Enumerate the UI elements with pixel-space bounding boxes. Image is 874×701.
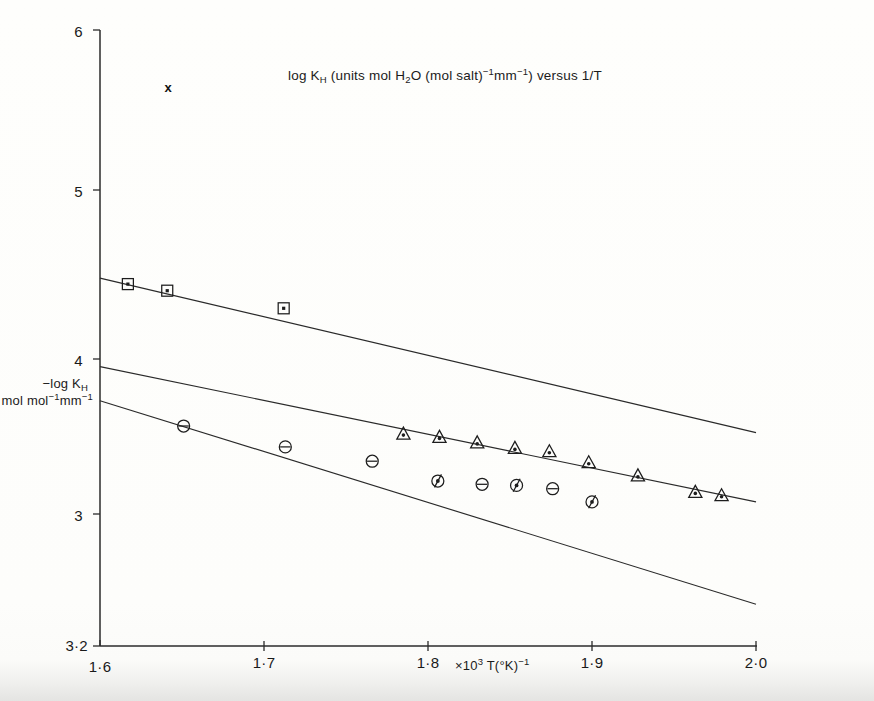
ylabel-line1-part1: −log K — [43, 376, 82, 391]
x-ticklabel-1-6: 1·6 — [89, 658, 112, 675]
data-point-circle-with-bar — [366, 455, 378, 467]
y-ticklabel-3-2: 3·2 — [65, 637, 88, 654]
title-part-6: 1/T — [582, 68, 602, 83]
y-axis-label: −log KH mol mol−1mm−1 — [2, 376, 93, 408]
data-point-circle-with-dot-tail — [511, 479, 523, 492]
fit-line-squares — [100, 278, 756, 432]
plot-svg: 6 5 4 3 3·2 1·6 1·7 1·8 1·9 2·0 log KH (… — [0, 0, 874, 701]
x-ticklabel-1-9: 1·9 — [581, 654, 604, 671]
fit-line-triangles — [100, 367, 756, 502]
title-part-1: log K — [288, 68, 320, 83]
y-ticklabel-6: 6 — [74, 23, 83, 40]
title-sup-1: −1 — [483, 66, 494, 77]
data-point-circle-with-dot-tail — [586, 495, 598, 508]
data-point-triangle-with-dot — [689, 485, 702, 497]
plot-title: log KH (units mol H2O (mol salt)−1mm−1) … — [288, 66, 602, 85]
ylabel-line2-part2: mm — [60, 393, 82, 408]
x-axis-label: ×103 T(°K)−1 — [455, 656, 529, 673]
ylabel-line2-sup2: −1 — [82, 391, 93, 402]
x-axis-tick-labels: 1·6 1·7 1·8 1·9 2·0 — [89, 654, 768, 675]
data-point-triangle-with-dot — [471, 436, 484, 448]
y-axis-ticks — [93, 30, 100, 646]
data-point-square-with-dot — [278, 303, 289, 314]
ylabel-line2-part1: mol mol — [2, 393, 49, 408]
stray-x-mark: x — [164, 80, 172, 95]
data-point-circle-with-bar — [547, 483, 559, 495]
xlabel-part2: T(°K) — [483, 658, 518, 673]
xlabel-sup2: −1 — [518, 656, 529, 667]
data-point-circle-with-bar — [279, 441, 291, 453]
title-part-4: mm — [494, 68, 517, 83]
svg-text:mol mol−1mm−1: mol mol−1mm−1 — [2, 391, 93, 408]
title-sub-h: H — [320, 74, 327, 85]
data-point-circle-with-dot-tail — [432, 474, 444, 487]
data-markers-group — [122, 279, 728, 509]
x-ticklabel-1-8: 1·8 — [417, 654, 440, 671]
x-ticklabel-2-0: 2·0 — [745, 654, 768, 671]
x-ticklabel-1-7: 1·7 — [253, 654, 276, 671]
fit-lines-group — [100, 278, 756, 604]
data-point-triangle-with-dot — [543, 445, 556, 457]
arrhenius-plot-figure: 6 5 4 3 3·2 1·6 1·7 1·8 1·9 2·0 log KH (… — [0, 0, 874, 701]
svg-text:×103 T(°K)−1: ×103 T(°K)−1 — [455, 656, 529, 673]
y-axis-tick-labels: 6 5 4 3 3·2 — [65, 23, 88, 654]
y-ticklabel-3: 3 — [74, 507, 83, 524]
ylabel-line2-sup1: −1 — [48, 391, 59, 402]
title-part-5: ) versus — [528, 68, 582, 83]
plot-axes — [100, 30, 757, 646]
title-part-3: O (mol salt) — [411, 68, 483, 83]
data-point-circle-with-bar — [476, 478, 488, 490]
data-point-triangle-with-dot — [631, 469, 644, 481]
data-point-circle-with-bar — [178, 420, 190, 432]
fit-line-circles — [100, 401, 756, 605]
title-sup-2: −1 — [517, 66, 528, 77]
xlabel-part1: ×10 — [455, 658, 478, 673]
svg-text:log KH (units mol H2O (mol sal: log KH (units mol H2O (mol salt)−1mm−1) … — [288, 66, 602, 85]
y-ticklabel-5: 5 — [74, 183, 83, 200]
title-part-2: (units mol H — [327, 68, 405, 83]
y-ticklabel-4: 4 — [74, 352, 83, 369]
